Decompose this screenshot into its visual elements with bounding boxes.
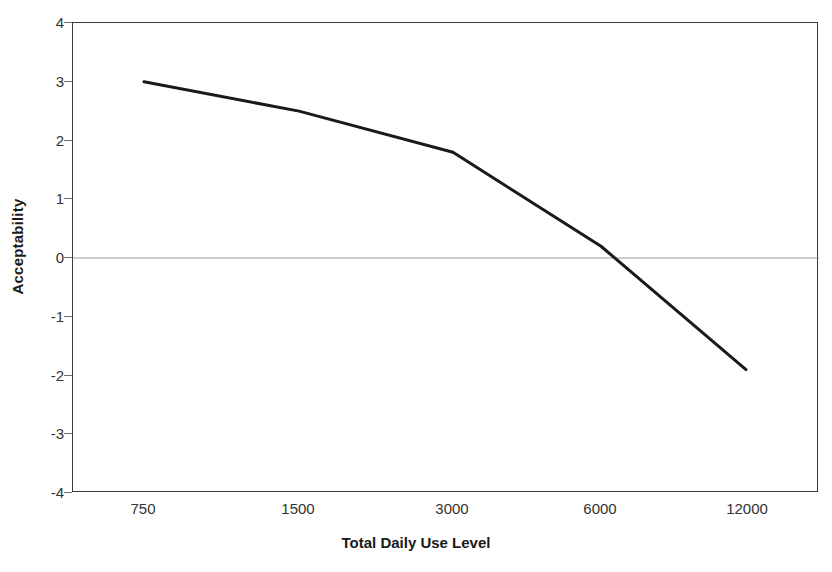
plot-canvas: [73, 23, 819, 493]
x-tick-label: 1500: [281, 500, 314, 517]
acceptability-series-line: [144, 82, 746, 370]
x-tick-label: 6000: [583, 500, 616, 517]
y-tick-mark: [64, 81, 72, 82]
x-tick-label: 3000: [435, 500, 468, 517]
x-axis-title: Total Daily Use Level: [0, 534, 832, 551]
y-tick-mark: [64, 433, 72, 434]
x-tick-label: 750: [130, 500, 155, 517]
y-tick-mark: [64, 492, 72, 493]
x-tick-label: 12000: [726, 500, 768, 517]
y-tick-mark: [64, 198, 72, 199]
y-tick-mark: [64, 22, 72, 23]
y-tick-mark: [64, 375, 72, 376]
y-tick-mark: [64, 140, 72, 141]
y-tick-mark: [64, 257, 72, 258]
acceptability-line-chart: Acceptability 4 3 2 1 0 -1 -2 -3 -4 750 …: [0, 0, 832, 572]
plot-area: [72, 22, 818, 492]
x-axis-title-text: Total Daily Use Level: [342, 534, 491, 551]
x-axis-tick-labels: 750 1500 3000 6000 12000: [0, 500, 832, 526]
y-tick-mark: [64, 316, 72, 317]
